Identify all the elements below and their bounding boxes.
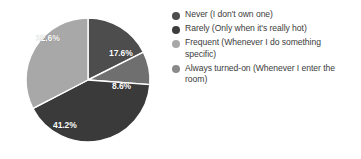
legend-item-label: Always turned-on (Whenever I enter the r…	[185, 63, 353, 86]
legend-item[interactable]: Frequent (Whenever I do something specif…	[172, 37, 361, 60]
pie-slice-value-label: 8.6%	[112, 81, 131, 91]
pie-slice-value-label: 17.6%	[109, 48, 133, 58]
pie-slice-value-label: 32.6%	[36, 33, 60, 43]
legend-item-label: Rarely (Only when it's really hot)	[185, 23, 307, 35]
legend-item-label: Frequent (Whenever I do something specif…	[185, 37, 353, 60]
chart-legend: Never (I don't own one)Rarely (Only when…	[172, 9, 361, 154]
legend-color-swatch-icon	[172, 40, 180, 48]
legend-item[interactable]: Always turned-on (Whenever I enter the r…	[172, 63, 361, 86]
pie-chart-plot-area: 17.6%8.6%41.2%32.6%	[0, 0, 172, 159]
pie-chart-svg	[0, 0, 172, 159]
pie-chart-figure: 17.6%8.6%41.2%32.6% Never (I don't own o…	[0, 0, 361, 159]
legend-color-swatch-icon	[172, 26, 180, 34]
pie-slice-value-label: 41.2%	[53, 120, 77, 130]
legend-color-swatch-icon	[172, 65, 180, 73]
legend-item[interactable]: Never (I don't own one)	[172, 9, 361, 21]
legend-color-swatch-icon	[172, 12, 180, 20]
legend-item[interactable]: Rarely (Only when it's really hot)	[172, 23, 361, 35]
legend-item-label: Never (I don't own one)	[185, 9, 273, 21]
